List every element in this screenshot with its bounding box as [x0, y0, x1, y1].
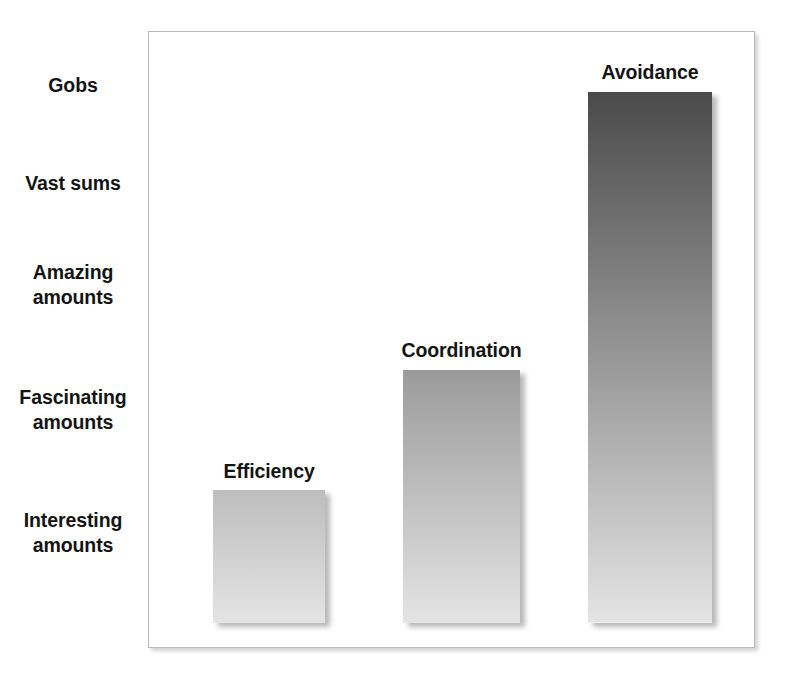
y-tick-label-interesting-amounts: Interesting amounts [0, 508, 146, 558]
plot-area: Efficiency Coordination Avoidance [148, 31, 755, 648]
bar-label-efficiency: Efficiency [224, 460, 315, 483]
bar-group-avoidance: Avoidance [588, 92, 712, 623]
bar-coordination[interactable] [403, 370, 520, 623]
y-axis-label-column: Gobs Vast sums Amazing amounts Fascinati… [0, 0, 146, 680]
bar-group-coordination: Coordination [403, 370, 520, 623]
bar-label-coordination: Coordination [401, 339, 521, 362]
bar-avoidance[interactable] [588, 92, 712, 623]
bar-chart-figure: Gobs Vast sums Amazing amounts Fascinati… [0, 0, 788, 680]
y-tick-label-amazing-amounts: Amazing amounts [0, 260, 146, 310]
bar-group-efficiency: Efficiency [213, 490, 325, 623]
bar-efficiency[interactable] [213, 490, 325, 623]
bar-label-avoidance: Avoidance [601, 61, 698, 84]
y-tick-label-vast-sums: Vast sums [0, 171, 146, 196]
y-tick-label-fascinating-amounts: Fascinating amounts [0, 385, 146, 435]
y-tick-label-gobs: Gobs [0, 73, 146, 98]
